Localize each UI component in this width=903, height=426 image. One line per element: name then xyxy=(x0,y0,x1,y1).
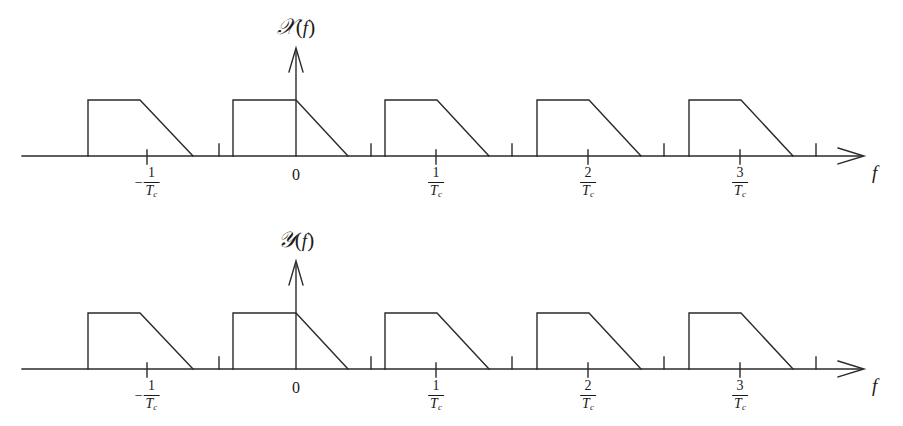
pulse-trace-y xyxy=(88,313,793,369)
plot-panel-y: 𝒴(f) f 0 − 1 Tc 1 Tc 2 xyxy=(0,213,903,426)
pulse-trace-x xyxy=(88,100,793,156)
plot-panel-x: 𝒳(f) f 0 − 1 Tc 1 Tc xyxy=(0,0,903,213)
spectrum-figure: 𝒳(f) f 0 − 1 Tc 1 Tc xyxy=(0,0,903,426)
plot-canvas-x xyxy=(0,0,903,213)
plot-canvas-y xyxy=(0,213,903,426)
